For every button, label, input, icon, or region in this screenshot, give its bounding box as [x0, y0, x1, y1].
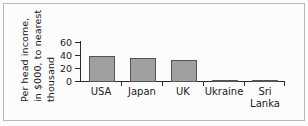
- x-category-label-sri-lanka-line-1: Sri: [258, 86, 271, 97]
- bar-uk[interactable]: [171, 60, 197, 82]
- x-category-label-ukraine-line-1: Ukraine: [205, 86, 244, 97]
- x-category-label-japan: Japan: [122, 86, 162, 98]
- bar-ukraine[interactable]: [212, 80, 238, 82]
- x-category-label-ukraine: Ukraine: [203, 86, 245, 98]
- x-category-label-uk: UK: [164, 86, 202, 98]
- x-category-label-usa-line-1: USA: [91, 86, 112, 97]
- y-tick-label-40: 40: [50, 51, 72, 61]
- y-tick-label-20: 20: [50, 64, 72, 74]
- bar-usa[interactable]: [89, 56, 115, 82]
- x-category-label-japan-line-1: Japan: [128, 86, 156, 97]
- x-category-label-usa: USA: [82, 86, 120, 98]
- plot-area: [80, 41, 284, 82]
- y-tick-label-0: 0: [50, 77, 72, 87]
- x-category-label-sri-lanka-line-2: Lanka: [245, 98, 285, 110]
- x-tick-mark-2: [162, 82, 163, 86]
- y-tick-label-60: 60: [50, 38, 72, 48]
- y-axis-title-line-1: Per head income,: [20, 18, 30, 102]
- bar-japan[interactable]: [130, 58, 156, 82]
- y-axis-title-line-2: in $000, to nearest: [33, 10, 43, 102]
- bar-sri-lanka[interactable]: [252, 80, 278, 82]
- x-category-label-uk-line-1: UK: [176, 86, 190, 97]
- bar-chart-figure: Per head income, in $000, to nearest tho…: [0, 0, 308, 126]
- x-category-label-sri-lanka: Sri Lanka: [245, 86, 285, 110]
